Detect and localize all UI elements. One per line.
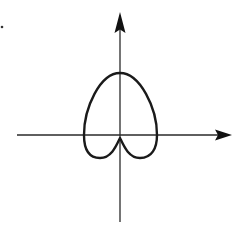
y-axis — [115, 12, 126, 222]
polar-curve-diagram — [0, 0, 248, 225]
x-axis — [17, 130, 232, 141]
stray-dot — [1, 26, 4, 29]
